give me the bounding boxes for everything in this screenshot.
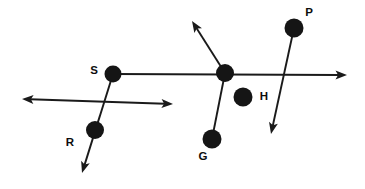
point-junction-dot [216, 64, 234, 82]
ray-p-through-h [273, 28, 294, 126]
ray-double-arrow-left [30, 99, 165, 103]
ray-s-through-r [84, 74, 113, 165]
point-g-label: G [199, 150, 208, 162]
point-r-label: R [66, 136, 75, 148]
point-s-label: S [90, 64, 98, 76]
point-p-dot [285, 19, 304, 38]
point-h-dot [234, 88, 253, 107]
ray-junction-upleft-arrowhead-end [192, 21, 202, 33]
point-r-dot [86, 121, 104, 139]
ray-g-to-junction [212, 73, 225, 139]
figure-canvas: SRHPG [0, 0, 365, 189]
rays-layer [22, 21, 347, 173]
geometry-figure: SRHPG [0, 0, 365, 189]
point-s-dot [105, 66, 122, 83]
point-h-label: H [260, 90, 268, 102]
point-p-label: P [305, 6, 313, 18]
point-g-dot [203, 130, 222, 149]
labels-layer: SRHPG [66, 6, 313, 162]
